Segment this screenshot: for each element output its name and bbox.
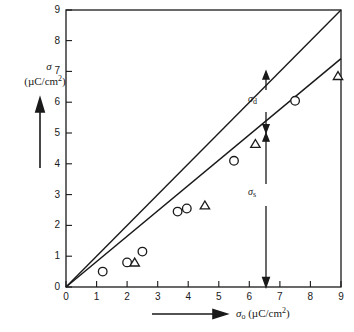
sigma-d-arrow [263, 71, 269, 141]
x-tick-label-4: 4 [181, 291, 195, 302]
data-point-triangle [200, 201, 209, 209]
x-axis-title: σo (µC/cm2) [236, 306, 290, 321]
circle-markers [98, 97, 299, 276]
triangle-markers [130, 72, 343, 266]
y-tick-label-1: 1 [46, 250, 60, 261]
x-tick-label-1: 1 [90, 291, 104, 302]
data-point-circle [230, 157, 239, 166]
y-tick-label-0: 0 [46, 281, 60, 292]
x-axis-direction-arrow [152, 310, 227, 319]
x-tick-label-6: 6 [242, 291, 256, 302]
y-axis-title-units: (µC/cm2) [14, 74, 76, 87]
data-point-circle [183, 204, 192, 213]
y-tick-label-5: 5 [46, 127, 60, 138]
x-tick-label-5: 5 [212, 291, 226, 302]
x-tick-label-0: 0 [59, 291, 73, 302]
data-point-circle [98, 267, 107, 276]
y-tick-label-6: 6 [46, 96, 60, 107]
x-tick-label-3: 3 [151, 291, 165, 302]
annotation-sigma-d: σd [248, 93, 257, 106]
data-point-circle [173, 207, 182, 216]
data-point-circle [291, 97, 300, 106]
data-point-circle [138, 247, 147, 256]
y-tick-label-8: 8 [46, 35, 60, 46]
y-axis-title-symbol: σ [24, 60, 74, 72]
sigma-s-subscript: s [253, 190, 256, 199]
y-axis-direction-arrow [36, 98, 44, 168]
sigma-s-arrow [263, 140, 270, 287]
x-axis-units-close: ) [286, 307, 290, 319]
x-tick-label-9: 9 [334, 291, 348, 302]
y-tick-label-2: 2 [46, 219, 60, 230]
y-axis-sigma-glyph: σ [46, 60, 51, 72]
y-tick-label-3: 3 [46, 189, 60, 200]
sigma-d-subscript: d [253, 97, 257, 106]
x-axis-ticks [66, 281, 341, 287]
y-axis-units-open: (µC/cm [24, 75, 58, 87]
unity-line [66, 10, 341, 287]
chart-figure: 0 1 2 3 4 5 6 7 8 9 0 1 2 3 4 5 6 7 8 9 … [0, 0, 354, 332]
data-trend-line [66, 59, 341, 287]
x-tick-label-8: 8 [303, 291, 317, 302]
y-axis-units-close: ) [62, 75, 66, 87]
x-tick-label-7: 7 [273, 291, 287, 302]
y-tick-label-9: 9 [46, 4, 60, 15]
x-axis-units-open: (µC/cm [248, 307, 282, 319]
x-axis-sigma-subscript: o [241, 312, 245, 321]
x-tick-label-2: 2 [120, 291, 134, 302]
data-point-triangle [251, 140, 260, 148]
annotation-sigma-s: σs [248, 186, 256, 199]
y-tick-label-4: 4 [46, 158, 60, 169]
y-axis-ticks [66, 10, 72, 287]
